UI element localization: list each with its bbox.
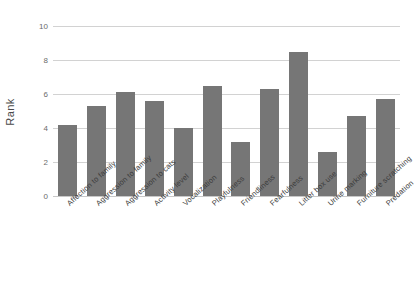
gridline (53, 94, 400, 95)
y-axis-title: Rank (4, 82, 16, 142)
y-axis-tick-labels: 0246810 (24, 26, 48, 196)
x-axis-tick-labels: Affection to familyAggression to familyA… (53, 197, 400, 285)
y-tick-label: 2 (26, 158, 48, 167)
y-tick-label: 0 (26, 192, 48, 201)
gridline (53, 26, 400, 27)
y-tick-label: 8 (26, 56, 48, 65)
y-tick-label: 6 (26, 90, 48, 99)
y-tick-label: 4 (26, 124, 48, 133)
bar (58, 125, 77, 196)
gridline (53, 60, 400, 61)
y-tick-label: 10 (26, 22, 48, 31)
